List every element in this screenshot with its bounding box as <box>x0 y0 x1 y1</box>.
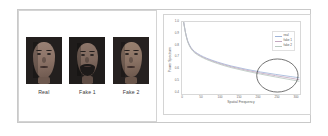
y-tick: 0.5 <box>175 79 179 82</box>
x-tick: 50 <box>199 96 202 99</box>
y-tick: 1.0 <box>175 20 179 23</box>
x-axis-label: Spatial Frequency <box>181 101 301 104</box>
face-fake-1-label: Fake 1 <box>79 90 96 95</box>
face-fake-1: Fake 1 <box>69 37 105 95</box>
face-fake-1-image <box>69 37 105 84</box>
legend-swatch-fake-2 <box>275 46 282 47</box>
x-tick: 100 <box>217 96 222 99</box>
x-tick: 150 <box>236 96 241 99</box>
y-tick: 0.9 <box>175 32 179 35</box>
y-tick: 0.7 <box>175 55 179 58</box>
power-spectrum-panel: 1.0 0.9 0.8 0.7 0.6 0.5 0.4 Power Spectr… <box>163 14 311 115</box>
face-row: Real Fake 1 <box>19 11 156 121</box>
face-real-label: Real <box>38 90 49 95</box>
face-real: Real <box>26 37 62 95</box>
face-fake-2-image <box>113 37 149 84</box>
legend-swatch-fake-1 <box>275 41 282 42</box>
y-tick: 0.8 <box>175 44 179 47</box>
face-fake-2: Fake 2 <box>113 37 149 95</box>
y-tick: 0.4 <box>175 91 179 94</box>
y-axis-label: Power Spectrum <box>169 37 172 83</box>
x-tick: 250 <box>274 96 279 99</box>
plot-area: real fake 1 fake 2 <box>181 21 301 95</box>
chart-legend: real fake 1 fake 2 <box>272 31 295 51</box>
face-examples-panel: Real Fake 1 <box>18 10 157 122</box>
legend-swatch-real <box>275 36 282 37</box>
face-fake-2-label: Fake 2 <box>123 90 140 95</box>
y-tick: 0.6 <box>175 67 179 70</box>
x-tick: 0 <box>181 96 183 99</box>
face-real-image <box>26 37 62 84</box>
figure-root: Real Fake 1 <box>0 0 328 136</box>
x-tick: 300 <box>293 96 298 99</box>
high-frequency-divergence-circle <box>257 59 298 92</box>
legend-item-fake-2: fake 2 <box>275 44 292 49</box>
legend-label-fake-2: fake 2 <box>284 44 292 47</box>
legend-label-fake-1: fake 1 <box>284 39 292 42</box>
legend-label-real: real <box>284 34 289 37</box>
x-tick: 200 <box>255 96 260 99</box>
